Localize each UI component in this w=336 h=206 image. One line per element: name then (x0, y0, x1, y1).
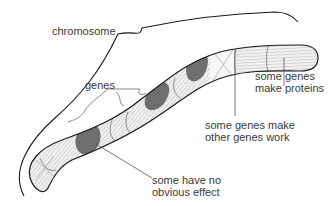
chromosome-diagram: chromosome genes some genes make protein… (0, 0, 336, 206)
label-make-other-work: some genes make other genes work (205, 119, 295, 143)
label-make-proteins: some genes make proteins (255, 70, 324, 94)
label-genes: genes (85, 79, 115, 91)
label-no-effect: some have no obvious effect (152, 174, 221, 198)
label-chromosome: chromosome (52, 25, 116, 37)
leader-no-effect (96, 144, 152, 178)
